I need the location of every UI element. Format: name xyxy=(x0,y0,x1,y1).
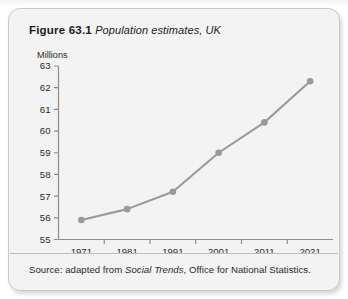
series-markers xyxy=(78,78,313,223)
y-axis-unit-text: Millions xyxy=(37,50,68,60)
y-axis-tick-label: 56 xyxy=(40,212,51,223)
series-line-uk-population xyxy=(81,81,310,220)
y-axis-tick-label: 60 xyxy=(40,125,51,136)
figure-card: Figure 63.1 Population estimates, UK Mil… xyxy=(8,8,340,291)
y-axis-tick-label: 62 xyxy=(40,82,51,93)
source-prefix: Source: adapted from xyxy=(29,264,125,275)
data-point-marker xyxy=(261,119,268,126)
y-axis-tick-label: 55 xyxy=(40,234,51,245)
y-axis-tick-label: 58 xyxy=(40,169,51,180)
data-point-marker xyxy=(215,149,222,156)
data-point-marker xyxy=(307,78,314,85)
x-axis-ticks: 197119811991200120112021 xyxy=(71,240,321,255)
y-axis-tick-label: 59 xyxy=(40,147,51,158)
line-chart: Millions 636261605958575655 197119811991… xyxy=(9,9,340,254)
figure-source: Source: adapted from Social Trends, Offi… xyxy=(29,264,311,275)
y-axis-tick-label: 57 xyxy=(40,191,51,202)
y-axis-tick-label: 61 xyxy=(40,104,51,115)
chart-area: Millions 636261605958575655 197119811991… xyxy=(9,9,340,254)
y-axis-ticks: 636261605958575655 xyxy=(40,60,59,245)
y-axis-tick-label: 63 xyxy=(40,60,51,71)
data-point-marker xyxy=(124,206,131,213)
y-axis-unit-label: Millions xyxy=(37,50,68,60)
source-divider xyxy=(10,253,338,254)
source-publication: Social Trends xyxy=(125,264,184,275)
data-point-marker xyxy=(78,217,85,224)
figure-page: Figure 63.1 Population estimates, UK Mil… xyxy=(0,0,348,299)
data-point-marker xyxy=(170,188,177,195)
source-suffix: , Office for National Statistics. xyxy=(184,264,311,275)
